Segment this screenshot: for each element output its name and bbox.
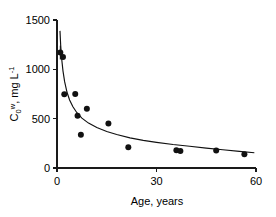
scatter-plot: 050010001500 03060 C0w, mg L-1 Age, year… bbox=[0, 0, 276, 217]
data-point bbox=[213, 147, 219, 153]
data-point bbox=[61, 91, 67, 97]
chart-container: 050010001500 03060 C0w, mg L-1 Age, year… bbox=[0, 0, 276, 217]
data-point bbox=[60, 54, 66, 60]
data-point bbox=[177, 148, 183, 154]
data-point bbox=[241, 151, 247, 157]
x-axis-ticks: 03060 bbox=[54, 168, 262, 187]
x-tick-label: 30 bbox=[150, 175, 162, 187]
data-point bbox=[78, 132, 84, 138]
x-axis-title: Age, years bbox=[131, 195, 184, 207]
x-tick-label: 60 bbox=[250, 175, 262, 187]
data-points-group bbox=[57, 50, 247, 158]
data-point bbox=[125, 144, 131, 150]
y-tick-label: 1000 bbox=[26, 63, 50, 75]
x-tick-label: 0 bbox=[54, 175, 60, 187]
data-point bbox=[84, 106, 90, 112]
data-point bbox=[72, 91, 78, 97]
y-tick-label: 0 bbox=[44, 162, 50, 174]
fit-curve bbox=[60, 31, 254, 153]
data-point bbox=[105, 121, 111, 127]
y-tick-label: 1500 bbox=[26, 14, 50, 26]
y-tick-label: 500 bbox=[32, 113, 50, 125]
data-point bbox=[75, 113, 81, 119]
y-axis-title: C0w, mg L-1 bbox=[7, 67, 23, 122]
y-axis-ticks: 050010001500 bbox=[26, 14, 57, 174]
axes-group bbox=[57, 20, 256, 168]
